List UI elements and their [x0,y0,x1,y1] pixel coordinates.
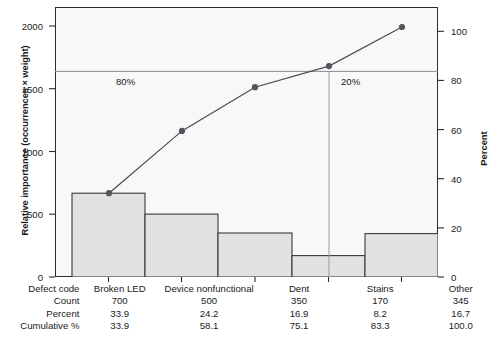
cell-defect-code-3: Stains [340,283,421,295]
row-label-cumulative-percent: Cumulative % [0,320,79,332]
x-axis-ticks [109,277,402,282]
cell-count-0: 700 [79,295,160,307]
cell-cumulative-2: 75.1 [258,320,340,332]
row-label-count: Count [0,295,79,307]
annotation-20-percent: 20% [341,76,360,87]
cell-count-2: 350 [258,295,340,307]
right-axis-ticks [438,31,444,277]
row-label-defect-code: Defect code [0,283,79,295]
cell-percent-1: 24.2 [160,308,258,320]
cell-cumulative-1: 58.1 [160,320,258,332]
cell-defect-code-4: Other [420,283,501,295]
defect-data-table: Defect code Broken LED Device nonfunctio… [0,283,501,333]
cell-defect-code-2: Dent [258,283,340,295]
cell-count-1: 500 [160,295,258,307]
row-label-percent: Percent [0,308,79,320]
cell-cumulative-4: 100.0 [420,320,501,332]
pareto-chart-figure: Relative importance (occurrences × weigh… [0,0,501,344]
cell-count-3: 170 [340,295,421,307]
cell-percent-2: 16.9 [258,308,340,320]
table-body: Defect code Broken LED Device nonfunctio… [0,283,501,333]
table-row-count: Count 700 500 350 170 345 [0,295,501,307]
cell-defect-code-0: Broken LED [79,283,160,295]
left-axis-ticks [49,26,55,277]
cell-percent-4: 16.7 [420,308,501,320]
cell-percent-3: 8.2 [340,308,421,320]
cell-cumulative-0: 33.9 [79,320,160,332]
cell-defect-code-1: Device nonfunctional [160,283,258,295]
cell-percent-0: 33.9 [79,308,160,320]
cell-count-4: 345 [420,295,501,307]
table-row-cumulative-percent: Cumulative % 33.9 58.1 75.1 83.3 100.0 [0,320,501,332]
cell-cumulative-3: 83.3 [340,320,421,332]
table-row-percent: Percent 33.9 24.2 16.9 8.2 16.7 [0,308,501,320]
annotation-80-percent: 80% [116,76,135,87]
table-row-defect-code: Defect code Broken LED Device nonfunctio… [0,283,501,295]
